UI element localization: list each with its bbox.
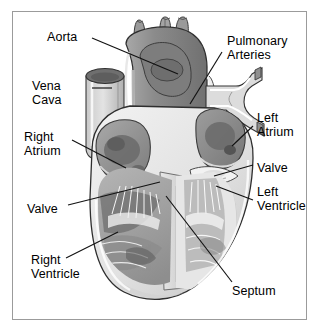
figure-canvas: Aorta VenaCava RightAtrium Valve RightVe… xyxy=(0,0,320,333)
right-ventricle xyxy=(90,160,180,300)
label-right-ventricle: RightVentricle xyxy=(31,254,80,281)
label-aorta: Aorta xyxy=(47,31,77,45)
label-pulmonary-arteries: PulmonaryArteries xyxy=(227,35,288,62)
label-left-atrium: LeftAtrium xyxy=(257,112,294,139)
label-vena-cava: VenaCava xyxy=(32,80,62,107)
label-valve-left: Valve xyxy=(27,203,58,217)
label-valve-right: Valve xyxy=(257,162,288,176)
label-septum: Septum xyxy=(232,285,276,299)
label-right-atrium: RightAtrium xyxy=(24,131,61,158)
label-left-ventricle: LeftVentricle xyxy=(257,186,306,213)
